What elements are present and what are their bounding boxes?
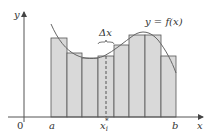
interval-start-label: a <box>49 120 55 131</box>
x-axis-label: x <box>197 120 203 131</box>
origin-label: 0 <box>17 120 23 131</box>
delta-x-label: Δx <box>98 27 112 38</box>
riemann-rectangle-6 <box>129 35 145 117</box>
sample-point-label: xi* <box>100 117 109 133</box>
y-axis-label: y <box>13 9 20 20</box>
riemann-rectangle-5 <box>114 45 129 117</box>
riemann-rectangle-2 <box>67 53 82 117</box>
riemann-rectangle-1 <box>51 38 67 117</box>
curve-label: y = f(x) <box>144 16 183 27</box>
riemann-sum-diagram: y 0 x a b xi* y = f(x) Δx <box>0 0 211 136</box>
riemann-rectangle-7 <box>145 35 161 117</box>
riemann-rectangles <box>51 35 176 117</box>
delta-x-brace <box>98 40 114 44</box>
riemann-rectangle-3 <box>82 58 98 117</box>
interval-end-label: b <box>172 120 178 131</box>
riemann-rectangle-8 <box>161 56 176 117</box>
